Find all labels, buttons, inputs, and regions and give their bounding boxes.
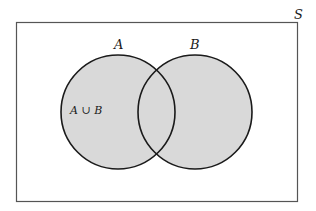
union-label: A ∪ B: [69, 104, 102, 117]
venn-diagram: S A B A ∪ B: [0, 0, 316, 211]
set-b-label: B: [189, 37, 200, 52]
universe-label: S: [294, 7, 303, 22]
set-a-label: A: [113, 37, 123, 52]
